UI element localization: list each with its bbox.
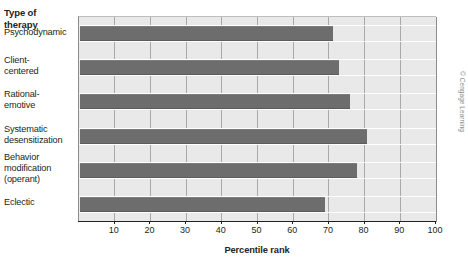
category-label-line: emotive	[4, 100, 77, 111]
category-label-3: Rational-emotive	[4, 89, 77, 111]
category-label-2: Client-centered	[4, 55, 77, 77]
row-separator	[79, 212, 436, 213]
bar	[80, 129, 367, 144]
x-tick-label-100: 100	[420, 225, 450, 235]
category-label-line: (operant)	[4, 174, 77, 185]
plot-area	[78, 16, 436, 222]
x-tick-label-10: 10	[99, 225, 129, 235]
bar-chart-figure: Type of therapy PsychodynamicClient-cent…	[0, 0, 468, 265]
category-label-line: Rational-	[4, 89, 77, 100]
gridline-90	[400, 17, 401, 222]
x-tick-mark-60	[292, 221, 293, 224]
x-tick-label-20: 20	[134, 225, 164, 235]
row-separator	[79, 109, 436, 110]
x-tick-mark-10	[114, 221, 115, 224]
gridline-50	[257, 17, 258, 222]
x-tick-mark-80	[364, 221, 365, 224]
x-tick-label-90: 90	[384, 225, 414, 235]
row-separator	[79, 162, 436, 163]
gridline-60	[293, 17, 294, 222]
category-label-line: Client-	[4, 55, 77, 66]
gridline-80	[364, 17, 365, 222]
x-tick-mark-40	[221, 221, 222, 224]
bar	[80, 163, 357, 178]
category-label-line: Psychodynamic	[4, 27, 77, 38]
x-tick-mark-30	[185, 221, 186, 224]
gridline-70	[328, 17, 329, 222]
x-tick-label-40: 40	[206, 225, 236, 235]
x-tick-label-70: 70	[313, 225, 343, 235]
category-label-5: Behaviormodification(operant)	[4, 152, 77, 185]
gridline-40	[221, 17, 222, 222]
bar	[80, 94, 350, 109]
copyright-credit: © Cengage Learning	[459, 71, 466, 132]
category-label-line: Behavior	[4, 152, 77, 163]
category-label-line: desensitization	[4, 135, 77, 146]
category-label-6: Eclectic	[4, 197, 77, 208]
bar	[80, 60, 339, 75]
gridline-100	[436, 17, 437, 222]
x-tick-mark-20	[149, 221, 150, 224]
x-tick-label-60: 60	[277, 225, 307, 235]
bar	[80, 197, 325, 212]
x-tick-label-50: 50	[242, 225, 272, 235]
row-separator	[79, 93, 436, 94]
category-label-4: Systematicdesensitization	[4, 124, 77, 146]
x-tick-mark-50	[257, 221, 258, 224]
row-separator	[79, 59, 436, 60]
category-label-line: Eclectic	[4, 197, 77, 208]
row-separator	[79, 41, 436, 42]
plot-inner	[79, 17, 436, 222]
x-axis-title: Percentile rank	[78, 245, 436, 255]
x-tick-label-80: 80	[349, 225, 379, 235]
row-separator	[79, 196, 436, 197]
category-label-line: Systematic	[4, 124, 77, 135]
row-separator	[79, 75, 436, 76]
category-label-line: modification	[4, 163, 77, 174]
row-separator	[79, 25, 436, 26]
row-separator	[79, 128, 436, 129]
category-axis-title-line-1: Type of	[4, 7, 76, 19]
gridline-30	[186, 17, 187, 222]
row-separator	[79, 178, 436, 179]
gridline-10	[114, 17, 115, 222]
gridline-20	[150, 17, 151, 222]
bar	[80, 26, 333, 41]
x-tick-mark-100	[435, 221, 436, 224]
x-tick-mark-70	[328, 221, 329, 224]
row-separator	[79, 144, 436, 145]
category-label-line: centered	[4, 66, 77, 77]
category-label-1: Psychodynamic	[4, 27, 77, 38]
x-tick-mark-90	[399, 221, 400, 224]
x-tick-label-30: 30	[170, 225, 200, 235]
